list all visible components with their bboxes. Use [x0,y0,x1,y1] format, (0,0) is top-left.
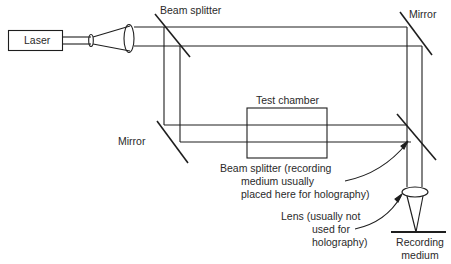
beam-splitter-top-label: Beam splitter [160,4,221,17]
laser-label: Laser [24,34,50,47]
lens-label-line-3: holography) [270,236,360,249]
small-lens-icon [89,35,94,47]
mirror-left-label: Mirror [118,135,145,148]
beam-splitter-bottom-label-line-2: medium usually [220,175,370,188]
lens-label-line-2: used for [270,223,360,236]
mirror-top-right-label: Mirror [409,8,436,21]
lens-label: Lens (usually not used for holography) [270,210,360,249]
beam-splitter-bottom-label-line-3: placed here for holography) [220,188,370,201]
lens-label-line-1: Lens (usually not [270,210,360,223]
beam-splitter-top-icon [155,14,190,57]
beam-splitter-bottom-label-line-1: Beam splitter (recording [220,162,370,175]
test-chamber-label: Test chamber [256,94,319,107]
recording-medium-label-line-2: medium [390,249,450,262]
recording-medium-label: Recording medium [390,236,450,262]
lens-arrowhead-icon [395,194,402,202]
collimating-lens-icon [124,25,134,53]
test-chamber-box [247,108,327,158]
beam-splitter-bottom-icon [397,114,436,160]
mach-zehnder-interferometer-diagram [0,0,451,264]
beam-splitter-bottom-label: Beam splitter (recording medium usually … [220,162,370,201]
recording-medium-label-line-1: Recording [390,236,450,249]
focus-ray-1 [407,196,416,232]
focus-ray-2 [416,196,423,232]
focusing-lens-icon [402,187,428,197]
